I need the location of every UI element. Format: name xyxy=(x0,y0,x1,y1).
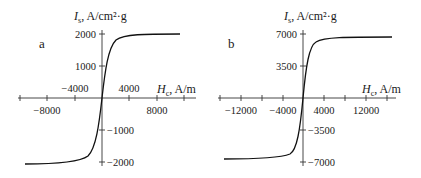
panel-a-ytick-neg1000: −1000 xyxy=(107,125,134,136)
panel-b-xtick-4000: 4000 xyxy=(314,105,335,116)
figure: a Is, A/cm²·g 2000 1000 −1000 −2000 −400 xyxy=(0,0,421,178)
panel-b-ytick-3500: 3500 xyxy=(276,61,297,72)
panel-b-xtick-neg12000: −12000 xyxy=(225,105,257,116)
panel-b: b Is, A/cm²·g 7000 3500 −3500 −7000 −120… xyxy=(218,9,402,168)
panel-b-letter: b xyxy=(228,36,235,51)
panel-b-xlabel-rest: , A/m xyxy=(374,82,401,96)
panel-b-x-axis-title: Hc, A/m xyxy=(361,82,402,98)
panel-a-xlabel-rest: , A/m xyxy=(169,82,196,96)
panel-a-xtick-neg8000: −8000 xyxy=(34,105,61,116)
panel-a-ytick-neg2000: −2000 xyxy=(107,157,134,168)
panel-b-ylabel-rest: , A/cm²·g xyxy=(291,9,337,23)
panel-b-ytick-neg7000: −7000 xyxy=(308,157,335,168)
panel-a-ytick-1000: 1000 xyxy=(75,61,96,72)
panel-a: a Is, A/cm²·g 2000 1000 −1000 −2000 −400 xyxy=(18,9,197,168)
panel-a-xtick-4000: 4000 xyxy=(119,83,140,94)
panel-b-ytick-neg3500: −3500 xyxy=(308,125,335,136)
panel-a-ylabel-rest: , A/cm²·g xyxy=(81,9,127,23)
panel-a-y-axis-title: Is, A/cm²·g xyxy=(73,9,127,25)
panel-a-xtick-neg4000: −4000 xyxy=(62,83,89,94)
panel-a-ytick-2000: 2000 xyxy=(75,29,96,40)
panel-a-xtick-8000: 8000 xyxy=(147,105,168,116)
panel-a-letter: a xyxy=(39,36,45,51)
panel-b-y-axis-title: Is, A/cm²·g xyxy=(283,9,337,25)
panel-b-ytick-7000: 7000 xyxy=(276,29,297,40)
panel-a-x-axis-title: Hc, A/m xyxy=(156,82,197,98)
panel-b-xtick-12000: 12000 xyxy=(353,105,379,116)
panel-b-xtick-neg4000: −4000 xyxy=(270,105,297,116)
